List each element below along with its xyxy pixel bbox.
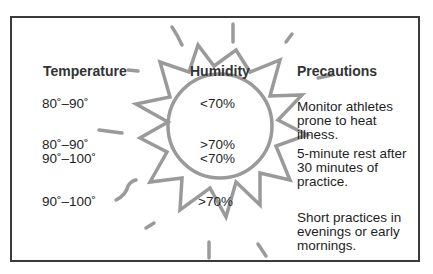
- humidity-header: Humidity: [190, 64, 250, 78]
- row2-precaution-line1: 5-minute rest after: [297, 147, 407, 161]
- row3-precaution-line1: Short practices in: [297, 211, 401, 225]
- row3-temperature: 90˚–100˚: [42, 195, 96, 209]
- row1-precaution-line3: illness.: [297, 128, 338, 142]
- row1-precaution-line1: Monitor athletes: [297, 100, 393, 114]
- row2-temperature-line1: 80˚–90˚: [42, 138, 89, 152]
- row3-humidity: >70%: [198, 195, 233, 209]
- precautions-header: Precautions: [297, 64, 377, 78]
- row1-humidity: <70%: [200, 97, 235, 111]
- row2-temperature-line2: 90˚–100˚: [42, 152, 96, 166]
- row2-precaution-line3: practice.: [297, 175, 348, 189]
- row3-precaution-line3: mornings.: [297, 239, 356, 253]
- row2-humidity-line1: >70%: [200, 138, 235, 152]
- row2-precaution-line2: 30 minutes of: [297, 161, 378, 175]
- row2-humidity-line2: <70%: [200, 152, 235, 166]
- row1-temperature: 80˚–90˚: [42, 97, 89, 111]
- row3-precaution-line2: evenings or early: [297, 225, 400, 239]
- temperature-header: Temperature: [43, 64, 127, 78]
- row1-precaution-line2: prone to heat: [297, 114, 377, 128]
